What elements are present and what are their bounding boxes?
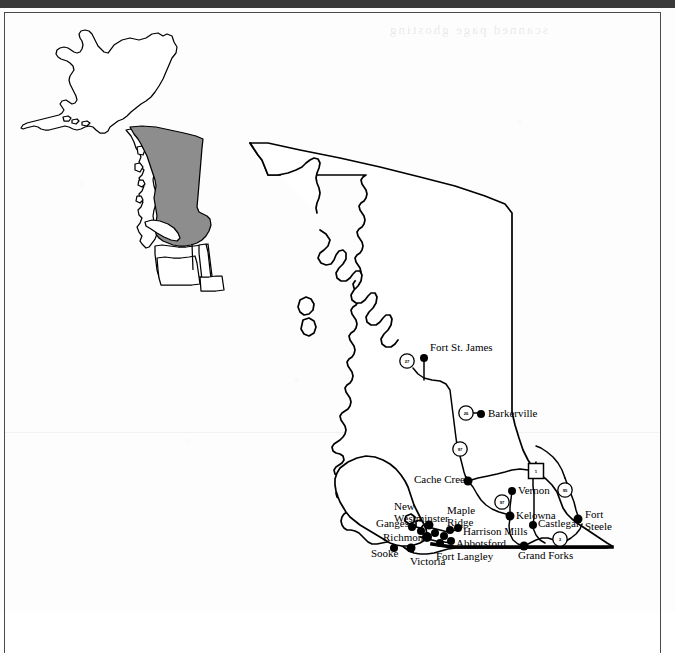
shield-label-27: 27: [405, 359, 410, 364]
city-label-abbotsford: Abbotsford: [456, 538, 506, 550]
shield-label-97-north: 97: [458, 447, 463, 452]
city-label-fort-st-james: Fort St. James: [430, 342, 493, 354]
city-label-victoria: Victoria: [410, 556, 445, 568]
shield-hwy-95: 95: [558, 483, 572, 497]
city-label-maple-ridge: Maple Ridge: [447, 504, 475, 528]
haida-gwaii-islands: [298, 297, 316, 336]
shield-hwy-3: 3: [553, 532, 567, 546]
city-dot-kelowna: [506, 512, 515, 521]
city-label-fort-steele: Fort Steele: [585, 508, 612, 532]
city-label-cache-creek: Cache Creek: [414, 474, 471, 486]
city-dot-abbotsford: [447, 537, 455, 545]
shield-trans-canada-1: 1: [529, 464, 544, 479]
shield-label-97-south: 97: [500, 500, 505, 505]
shield-hwy-27: 27: [400, 354, 414, 368]
city-label-richmond: Richmond: [383, 532, 429, 544]
shield-label-95: 95: [563, 488, 568, 493]
city-dot-castlegar: [529, 521, 537, 529]
city-dot-barkerville: [477, 410, 485, 418]
city-dot-victoria: [407, 544, 416, 553]
city-dot-ganges: [408, 523, 416, 531]
city-dot-fort-st-james: [420, 354, 428, 362]
shield-hwy-97-north: 97: [453, 442, 467, 456]
city-dot-metro-cluster-b: [440, 532, 448, 540]
shield-hwy-97-south: 97: [495, 495, 509, 509]
city-dot-metro-cluster-a: [431, 529, 439, 537]
city-label-barkerville: Barkerville: [488, 408, 537, 420]
shield-label-26: 26: [464, 411, 469, 416]
city-label-castlegar: Castlegar: [538, 518, 580, 530]
city-label-vernon: Vernon: [518, 485, 550, 497]
city-label-grand-forks: Grand Forks: [518, 550, 573, 562]
city-label-ganges: Ganges: [376, 518, 409, 530]
city-dot-vernon: [508, 487, 516, 495]
city-label-sooke: Sooke: [371, 548, 399, 560]
city-dot-fort-langley: [436, 539, 444, 547]
shield-hwy-26: 26: [459, 406, 473, 420]
